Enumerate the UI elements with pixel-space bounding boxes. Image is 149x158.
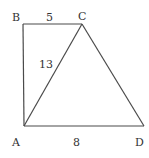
geometry-diagram: B C A D 5 13 8 bbox=[0, 0, 149, 158]
length-labels: 5 13 8 bbox=[39, 11, 80, 149]
vertex-label-a: A bbox=[11, 136, 21, 149]
edge-ac bbox=[24, 24, 82, 126]
vertex-label-b: B bbox=[12, 11, 20, 24]
length-label-ac: 13 bbox=[39, 58, 53, 71]
vertex-label-d: D bbox=[135, 136, 144, 149]
length-label-ad: 8 bbox=[73, 136, 80, 149]
figure-edges bbox=[23, 24, 144, 126]
edge-ba bbox=[23, 24, 24, 126]
length-label-bc: 5 bbox=[46, 11, 53, 24]
vertex-label-c: C bbox=[78, 10, 86, 23]
edge-cd bbox=[82, 24, 144, 126]
